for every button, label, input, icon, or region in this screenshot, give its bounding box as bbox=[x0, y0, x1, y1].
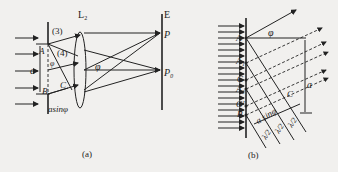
caption-b: (b) bbox=[248, 150, 259, 160]
angle-at-a-label: φ bbox=[50, 59, 55, 68]
lens-label: L₂ bbox=[78, 9, 88, 20]
caption-a: (a) bbox=[82, 149, 92, 159]
angle-label-b: φ bbox=[268, 27, 274, 38]
diffraction-diagram: L₂ E P P₀ (3) (4) A B C a φ φ asinφ (a) bbox=[0, 0, 338, 172]
width-label: a bbox=[30, 65, 35, 76]
width-label-b: a bbox=[307, 79, 312, 90]
point-g-label: G bbox=[237, 74, 244, 84]
point-p-label: P bbox=[163, 29, 170, 40]
path-difference-label: asinφ bbox=[48, 104, 68, 114]
point-a2-label: A₂ bbox=[235, 84, 245, 94]
figure-a: L₂ E P P₀ (3) (4) A B C a φ φ asinφ (a) bbox=[15, 9, 174, 159]
point-c-label: C bbox=[60, 80, 67, 90]
path-difference-label-b: a sinφ bbox=[254, 106, 278, 126]
screen-label: E bbox=[164, 9, 170, 20]
angle-label: φ bbox=[95, 61, 101, 72]
point-a1-label: A₁ bbox=[235, 56, 245, 66]
point-g-prime-label: G′ bbox=[236, 99, 245, 109]
point-a-label: A bbox=[235, 33, 242, 43]
point-c-label-b: C bbox=[287, 89, 294, 99]
figure-b: φ A A₁ G A₂ G′ B C a a sinφ λ/2 λ/2 λ/2 … bbox=[218, 10, 328, 160]
ray-4-label: (4) bbox=[57, 48, 68, 58]
edge-a-label: A bbox=[38, 46, 45, 56]
point-p0-label: P₀ bbox=[163, 67, 174, 78]
edge-b-label: B bbox=[42, 86, 48, 96]
ray-3-label: (3) bbox=[52, 26, 63, 36]
point-b-label: B bbox=[237, 109, 243, 119]
